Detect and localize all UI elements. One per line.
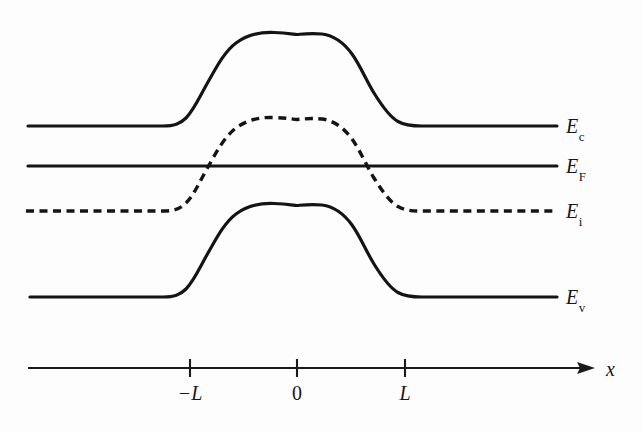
band-diagram-canvas	[0, 0, 642, 433]
label-ef-subscript: F	[579, 169, 586, 184]
curve-ec	[28, 32, 557, 126]
label-ef: EF	[566, 156, 585, 180]
x-axis-label: x	[606, 359, 615, 379]
label-ec: Ec	[566, 116, 584, 140]
energy-band-diagram-figure: Ec EF Ei Ev −L 0 L x	[0, 0, 642, 433]
curve-ev	[30, 203, 557, 297]
label-ef-base: E	[566, 155, 578, 177]
tick-label-zero: 0	[292, 383, 302, 403]
label-ei: Ei	[566, 201, 582, 225]
label-ev-base: E	[566, 286, 578, 308]
tick-label-minus-l: −L	[178, 383, 203, 403]
label-ec-subscript: c	[579, 129, 585, 144]
label-ec-base: E	[566, 115, 578, 137]
label-ev-subscript: v	[579, 300, 586, 315]
curve-ei	[26, 117, 557, 211]
tick-label-l: L	[399, 383, 410, 403]
label-ev: Ev	[566, 287, 585, 311]
label-ei-subscript: i	[579, 214, 583, 229]
label-ei-base: E	[566, 200, 578, 222]
